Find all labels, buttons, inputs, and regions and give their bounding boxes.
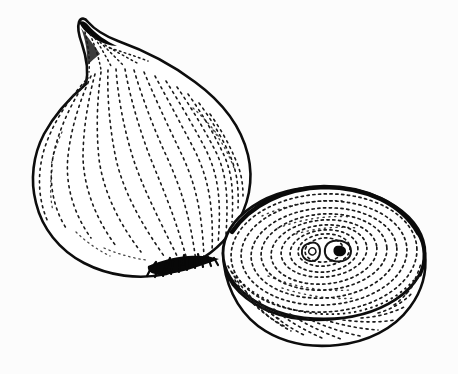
half-onion-core-right-inner: [333, 246, 346, 257]
onion-illustration: Onion line drawing Two onions: one whole…: [0, 0, 458, 374]
onion-drawing-svg: [0, 0, 458, 374]
half-onion: [223, 187, 425, 346]
